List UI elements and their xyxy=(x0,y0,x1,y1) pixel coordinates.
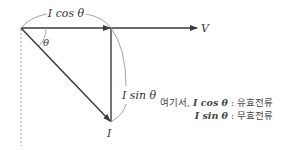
current-vector xyxy=(21,28,110,121)
sin-bracket-arc-lower xyxy=(111,104,126,122)
angle-label: θ xyxy=(43,37,49,48)
legend: 여기서, I cos θ : 유효전류 I sin θ : 무효전류 xyxy=(160,96,273,122)
voltage-label: V xyxy=(201,22,210,35)
legend-prefix: 여기서, xyxy=(160,97,190,108)
sin-component-label: I sin θ xyxy=(121,89,157,102)
cos-component-label: I cos θ xyxy=(47,7,85,20)
legend-row-reactive: I sin θ : 무효전류 xyxy=(160,109,273,122)
legend-separator: : xyxy=(231,110,234,121)
legend-meaning-reactive-current: 무효전류 xyxy=(237,110,273,121)
legend-term-cos: I cos θ xyxy=(193,97,228,108)
sin-bracket-arc-upper xyxy=(111,28,126,86)
cos-bracket-arc-right xyxy=(86,14,111,28)
legend-term-sin: I sin θ xyxy=(195,110,228,121)
legend-meaning-active-current: 유효전류 xyxy=(237,97,273,108)
legend-separator: : xyxy=(231,97,234,108)
phasor-diagram: I cos θ V θ I sin θ I xyxy=(0,0,286,150)
current-label: I xyxy=(106,127,112,140)
cos-bracket-arc-left xyxy=(21,14,47,28)
legend-row-active: 여기서, I cos θ : 유효전류 xyxy=(160,96,273,109)
